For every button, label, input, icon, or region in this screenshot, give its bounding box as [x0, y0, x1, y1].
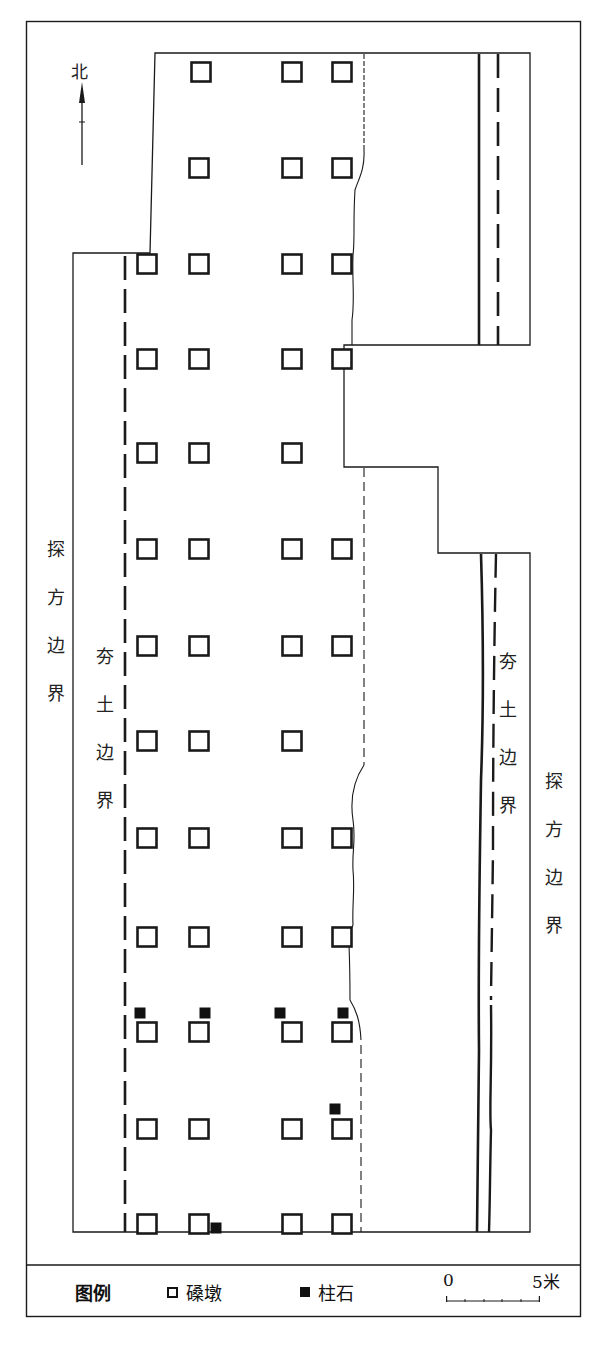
- north-label: 北: [71, 63, 88, 82]
- label-char: 边: [545, 868, 563, 916]
- filled-square-icon: [300, 1287, 310, 1297]
- footing-square-icon: [283, 159, 302, 178]
- legend: 图例 磉墩 柱石 0 5米: [26, 1266, 581, 1316]
- footing-square-icon: [333, 1215, 352, 1234]
- footing-square-icon: [138, 255, 157, 274]
- scale-ruler: [446, 1296, 540, 1302]
- footing-square-icon: [138, 540, 157, 559]
- footing-square-icon: [138, 1120, 157, 1139]
- label-char: 方: [545, 820, 563, 868]
- footing-square-icon: [283, 637, 302, 656]
- legend-item-footing: 磉墩: [167, 1279, 222, 1305]
- pillar-stone-icon: [135, 1008, 146, 1019]
- right-rammed-earth-boundary: [477, 54, 498, 1232]
- footing-square-icon: [190, 1023, 209, 1042]
- label-char: 方: [47, 588, 65, 636]
- label-char: 边: [499, 748, 517, 796]
- scale-end: 5米: [532, 1268, 560, 1293]
- footing-square-icon: [138, 732, 157, 751]
- label-char: 土: [499, 700, 517, 748]
- footing-square-icon: [190, 1120, 209, 1139]
- pillar-stone-icon: [330, 1104, 341, 1115]
- footing-grid: [138, 63, 352, 1234]
- footing-square-icon: [138, 444, 157, 463]
- footing-square-icon: [283, 829, 302, 848]
- footing-square-icon: [283, 255, 302, 274]
- north-arrow-icon: [79, 82, 85, 165]
- legend-label: 磉墩: [186, 1279, 222, 1305]
- footing-square-icon: [138, 350, 157, 369]
- scale-bar: 0 5米: [440, 1270, 570, 1310]
- pillar-stone-icon: [211, 1223, 222, 1234]
- legend-item-pillar-stone: 柱石: [300, 1279, 354, 1305]
- footing-square-icon: [333, 255, 352, 274]
- footing-square-icon: [138, 1215, 157, 1234]
- footing-square-icon: [190, 540, 209, 559]
- open-square-icon: [167, 1287, 178, 1298]
- footing-square-icon: [283, 540, 302, 559]
- label-char: 夯: [96, 647, 114, 695]
- footing-square-icon: [283, 732, 302, 751]
- legend-label: 柱石: [318, 1279, 354, 1305]
- footing-square-icon: [190, 159, 209, 178]
- left-rammed-earth-label: 夯 土 边 界: [94, 647, 116, 839]
- pillar-stone-icon: [200, 1008, 211, 1019]
- right-excavation-boundary-label: 探 方 边 界: [543, 772, 565, 964]
- footing-square-icon: [190, 444, 209, 463]
- footing-square-icon: [138, 928, 157, 947]
- footing-square-icon: [283, 928, 302, 947]
- footing-square-icon: [190, 829, 209, 848]
- label-char: 界: [499, 796, 517, 844]
- label-char: 边: [47, 636, 65, 684]
- label-char: 探: [47, 540, 65, 588]
- label-char: 界: [545, 916, 563, 964]
- footing-square-icon: [190, 1215, 209, 1234]
- footing-square-icon: [190, 350, 209, 369]
- footing-square-icon: [283, 63, 302, 82]
- footing-square-icon: [333, 159, 352, 178]
- footing-square-icon: [333, 928, 352, 947]
- footing-square-icon: [333, 350, 352, 369]
- footing-square-icon: [138, 637, 157, 656]
- label-char: 探: [545, 772, 563, 820]
- footing-square-icon: [138, 1023, 157, 1042]
- label-char: 边: [96, 743, 114, 791]
- legend-title: 图例: [75, 1279, 111, 1305]
- label-char: 界: [96, 791, 114, 839]
- right-rammed-earth-label: 夯 土 边 界: [497, 652, 519, 844]
- footing-square-icon: [190, 928, 209, 947]
- footing-square-icon: [333, 1120, 352, 1139]
- pillar-stone-icon: [338, 1008, 349, 1019]
- label-char: 夯: [499, 652, 517, 700]
- footing-square-icon: [283, 350, 302, 369]
- footing-square-icon: [283, 1120, 302, 1139]
- footing-square-icon: [138, 829, 157, 848]
- footing-square-icon: [333, 637, 352, 656]
- scale-start: 0: [443, 1270, 454, 1290]
- label-char: 土: [96, 695, 114, 743]
- footing-square-icon: [190, 255, 209, 274]
- footing-square-icon: [333, 540, 352, 559]
- label-char: 界: [47, 684, 65, 732]
- footing-square-icon: [333, 1023, 352, 1042]
- footing-square-icon: [333, 829, 352, 848]
- footing-square-icon: [283, 1215, 302, 1234]
- footing-square-icon: [283, 444, 302, 463]
- left-excavation-boundary-label: 探 方 边 界: [45, 540, 67, 732]
- pillar-stones: [135, 1008, 349, 1234]
- footing-square-icon: [190, 732, 209, 751]
- footing-square-icon: [283, 1023, 302, 1042]
- footing-square-icon: [190, 637, 209, 656]
- pillar-stone-icon: [275, 1008, 286, 1019]
- footing-square-icon: [333, 63, 352, 82]
- footing-square-icon: [192, 63, 211, 82]
